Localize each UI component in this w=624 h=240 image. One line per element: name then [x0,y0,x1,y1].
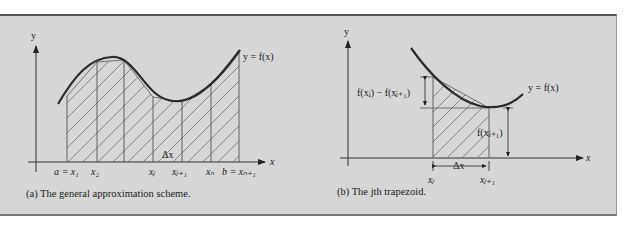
x-axis-label-a: x [269,156,275,167]
tick-label-a-xj: xⱼ [148,166,156,177]
y-axis-label-b: y [344,26,349,37]
tick-label-a-xn: xₙ [205,166,215,177]
tick-label-a-x1: a = x₁ [54,166,79,177]
delta-x-label-a: Δx [162,149,173,160]
y-axis-label-a: y [31,30,36,41]
figure-a: y x y = f(x) Δx a = x₁ x₂ xⱼ xⱼ₊₁ xₙ b =… [0,30,365,190]
curve-b [411,48,523,107]
tick-label-a-b: b = xₙ₊₁ [222,166,256,177]
tick-label-b-xj: xⱼ [427,174,435,185]
tick-label-a-xj1: xⱼ₊₁ [171,166,187,177]
diff-label-b: f(xⱼ) − f(xⱼ₊₁) [357,87,410,99]
caption-b: (b) The jth trapezoid. [337,186,426,197]
figure-b: y x y = f(x) f(xⱼ) − f(xⱼ₊₁) f(xⱼ₊₁) Δx … [340,26,591,185]
height-label-b: f(xⱼ₊₁) [477,127,502,139]
delta-x-label-b: Δx [453,160,464,171]
curve-label-b: y = f(x) [528,82,559,94]
chords-a [67,50,239,102]
tick-label-a-x2: x₂ [90,166,99,177]
x-axis-label-b: x [585,152,591,163]
tick-label-b-xj1: xⱼ₊₁ [479,174,495,185]
curve-label-a: y = f(x) [243,51,274,63]
caption-a: (a) The general approximation scheme. [26,188,191,199]
